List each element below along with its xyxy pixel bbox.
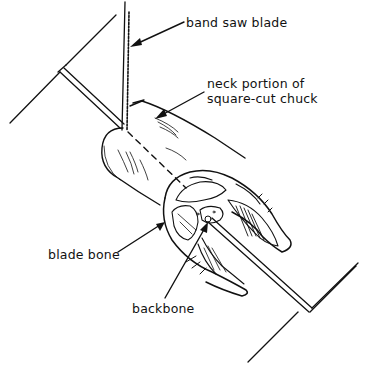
label-blade-bone: blade bone — [48, 247, 120, 262]
label-neck-line2: square-cut chuck — [207, 91, 318, 106]
left-cutting-guide — [10, 15, 124, 128]
right-cutting-guide — [208, 218, 358, 362]
label-band-saw-blade: band saw blade — [186, 15, 287, 30]
label-neck-portion: neck portion of square-cut chuck — [207, 76, 318, 106]
band-saw-blade — [122, 2, 129, 130]
arrow-neck — [160, 92, 204, 116]
chuck-cross-section — [164, 170, 291, 296]
meat-cut-illustration — [0, 0, 365, 376]
label-backbone: backbone — [132, 301, 195, 316]
neck-portion — [102, 100, 245, 205]
label-neck-line1: neck portion of — [207, 76, 318, 91]
leader-lines — [118, 22, 206, 298]
arrow-blade-bone — [118, 225, 160, 252]
arrowheads — [130, 38, 208, 233]
arrow-band-saw-blade — [134, 22, 184, 45]
diagram-canvas: band saw blade neck portion of square-cu… — [0, 0, 365, 376]
